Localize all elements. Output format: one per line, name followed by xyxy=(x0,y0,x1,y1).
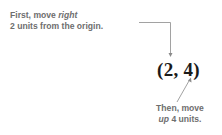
coordinate-label: (2, 4) xyxy=(157,59,200,81)
right-arrow-icon xyxy=(139,23,173,58)
move-up-line-1: Then, move xyxy=(148,103,212,114)
move-up-annotation: Then, move up 4 units. xyxy=(148,103,212,124)
move-up-line-2: up 4 units. xyxy=(148,114,212,125)
coordinate-diagram: First, move right 2 units from the origi… xyxy=(0,0,222,135)
up-arrow-icon xyxy=(177,78,192,103)
move-up-suffix: 4 units. xyxy=(169,114,201,124)
up-emphasis: up xyxy=(159,114,170,124)
